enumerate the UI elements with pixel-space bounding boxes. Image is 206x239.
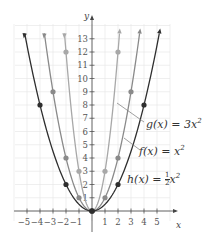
data-point [63, 182, 68, 187]
legend-f: f(x) = x2 [139, 144, 185, 158]
x-tick-label: 4 [141, 217, 146, 227]
x-tick-label: −4 [31, 217, 44, 227]
data-point [76, 195, 81, 200]
x-tick-label: 3 [128, 217, 133, 227]
x-tick-label: −5 [18, 217, 31, 227]
y-tick-label: 10 [77, 74, 88, 84]
y-tick-label: 3 [83, 166, 88, 176]
y-tick-label: 4 [83, 153, 88, 163]
y-tick-label: 9 [83, 87, 88, 97]
y-tick-label: 2 [83, 180, 88, 190]
origin-point [89, 208, 95, 214]
x-tick-label: −3 [44, 217, 57, 227]
x-tick-label: 2 [115, 217, 120, 227]
x-axis-arrow-icon [173, 209, 178, 213]
y-tick-label: 6 [83, 127, 88, 137]
data-point [76, 169, 81, 174]
data-point [102, 169, 107, 174]
data-point [63, 155, 68, 160]
legend-h: h(x) = 12x2 [127, 172, 180, 187]
leader-g [117, 103, 144, 122]
y-tick-label: 12 [77, 47, 88, 57]
data-point [37, 102, 42, 107]
data-point [128, 89, 133, 94]
x-tick-label: 1 [102, 217, 107, 227]
data-point [115, 49, 120, 54]
y-tick-label: 11 [77, 60, 88, 70]
y-tick-label: 8 [83, 100, 88, 110]
x-tick-label: −2 [57, 217, 70, 227]
curve-arrow-icon [137, 28, 141, 33]
x-axis-label: x [176, 220, 181, 230]
curve-arrow-icon [157, 29, 161, 34]
y-axis-label: y [83, 11, 90, 21]
y-axis-arrow-icon [90, 15, 94, 20]
y-tick-label: 7 [83, 113, 88, 123]
data-point [50, 89, 55, 94]
x-tick-label: −1 [70, 217, 83, 227]
data-point [102, 195, 107, 200]
y-tick-label: 13 [77, 34, 88, 44]
legend-g: g(x) = 3x2 [146, 117, 202, 131]
data-point [63, 49, 68, 54]
data-point [141, 102, 146, 107]
y-tick-label: 5 [83, 140, 88, 150]
data-point [115, 155, 120, 160]
x-tick-label: 5 [154, 217, 159, 227]
data-point [115, 182, 120, 187]
curve-arrow-icon [23, 33, 27, 38]
